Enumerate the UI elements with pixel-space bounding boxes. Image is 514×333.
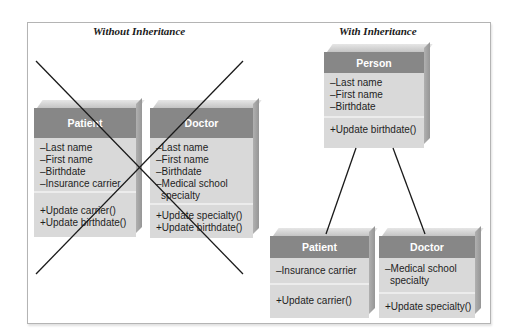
box-side-face bbox=[253, 98, 259, 234]
class-methods: +Update carrier() bbox=[270, 285, 369, 311]
class-attributes: –Insurance carrier bbox=[270, 258, 369, 285]
box-top-face bbox=[327, 44, 433, 52]
box-side-face bbox=[369, 226, 375, 314]
method: +Update carrier() bbox=[276, 295, 363, 307]
attribute: –Birthdate bbox=[330, 101, 418, 113]
attribute: –Last name bbox=[156, 142, 247, 154]
class-attributes: –Last name –First name –Birthdate –Insur… bbox=[34, 138, 136, 193]
box-top-face bbox=[273, 228, 378, 236]
attribute: –First name bbox=[330, 89, 418, 101]
method: +Update birthdate() bbox=[40, 217, 130, 229]
class-header: Patient bbox=[270, 236, 369, 258]
attribute: –Insurance carrier bbox=[276, 265, 363, 277]
class-attributes: –Last name –First name –Birthdate –Medic… bbox=[150, 138, 253, 205]
attribute: –Birthdate bbox=[156, 166, 247, 178]
class-box-doctor-right: Doctor –Medical school specialty +Update… bbox=[379, 228, 475, 318]
attribute: specialty bbox=[156, 190, 247, 202]
class-box-patient-right: Patient –Insurance carrier +Update carri… bbox=[270, 228, 369, 318]
attribute: –First name bbox=[40, 154, 130, 166]
class-attributes: –Medical school specialty bbox=[379, 258, 475, 294]
box-top-face bbox=[153, 100, 262, 108]
attribute: specialty bbox=[385, 275, 469, 287]
method: +Update specialty() bbox=[385, 301, 469, 313]
class-attributes: –Last name –First name –Birthdate bbox=[324, 73, 424, 118]
box-top-face bbox=[37, 100, 145, 108]
box-top-face bbox=[382, 228, 484, 236]
attribute: –Birthdate bbox=[40, 166, 130, 178]
attribute: –Insurance carrier bbox=[40, 178, 130, 190]
box-side-face bbox=[136, 98, 142, 233]
attribute: –Last name bbox=[330, 77, 418, 89]
class-methods: +Update specialty() bbox=[379, 294, 475, 317]
class-header: Person bbox=[324, 52, 424, 73]
box-side-face bbox=[424, 42, 430, 144]
method: +Update carrier() bbox=[40, 205, 130, 217]
method: +Update specialty() bbox=[156, 210, 247, 222]
class-header: Doctor bbox=[379, 236, 475, 258]
without-inheritance-title: Without Inheritance bbox=[93, 25, 185, 37]
box-side-face bbox=[475, 226, 481, 314]
class-methods: +Update specialty() +Update birthdate() bbox=[150, 205, 253, 238]
class-box-doctor-left: Doctor –Last name –First name –Birthdate… bbox=[150, 100, 253, 238]
attribute: –Medical school bbox=[156, 178, 247, 190]
class-header: Patient bbox=[34, 108, 136, 138]
class-methods: +Update carrier() +Update birthdate() bbox=[34, 193, 136, 233]
attribute: –Last name bbox=[40, 142, 130, 154]
class-box-person: Person –Last name –First name –Birthdate… bbox=[324, 44, 424, 148]
attribute: –First name bbox=[156, 154, 247, 166]
method: +Update birthdate() bbox=[330, 124, 418, 136]
class-header: Doctor bbox=[150, 108, 253, 138]
class-methods: +Update birthdate() bbox=[324, 118, 424, 140]
method: +Update birthdate() bbox=[156, 222, 247, 234]
attribute: –Medical school bbox=[385, 263, 469, 275]
class-box-patient-left: Patient –Last name –First name –Birthdat… bbox=[34, 100, 136, 237]
with-inheritance-title: With Inheritance bbox=[339, 25, 417, 37]
